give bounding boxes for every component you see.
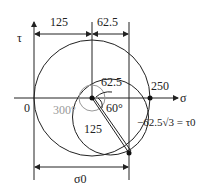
mohr-circle-diagram: 125 62.5 τ σ 0 62.5 250 300° 60° 125 −62…: [0, 0, 211, 193]
label-tau: τ: [17, 31, 22, 45]
label-125-top: 125: [50, 15, 68, 29]
label-origin: 0: [24, 101, 30, 115]
label-60deg: 60°: [106, 101, 123, 115]
center-point: [90, 96, 95, 101]
label-125-chord: 125: [84, 122, 102, 136]
label-sigma0: σ0: [74, 172, 86, 186]
label-sigma: σ: [180, 91, 187, 105]
label-300deg: 300°: [53, 103, 76, 117]
label-62.5-top: 62.5: [97, 15, 118, 29]
point-250: [148, 96, 153, 101]
point-tau0: [127, 151, 132, 156]
label-250: 250: [151, 79, 169, 93]
label-62.5-small: 62.5: [101, 75, 122, 89]
label-tau0: −62.5√3 = τ0: [137, 116, 196, 128]
